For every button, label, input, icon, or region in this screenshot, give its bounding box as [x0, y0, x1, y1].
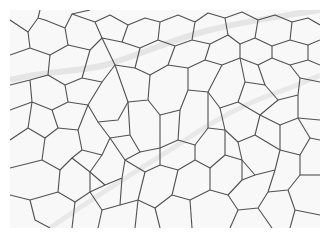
image-frame	[0, 0, 331, 238]
cell-micrograph	[10, 10, 320, 228]
cell-boundaries-illustration	[10, 10, 320, 228]
